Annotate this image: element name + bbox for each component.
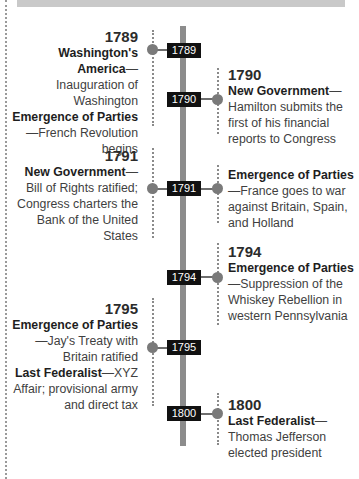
entry-dash: — — [35, 334, 47, 348]
entry-1794: 1794 Emergence of Parties—Suppression of… — [228, 243, 356, 324]
right-dotted-guide — [217, 165, 219, 223]
entry-1800: 1800 Last Federalist—Thomas Jefferson el… — [228, 396, 356, 461]
year-marker-1789: 1789 — [167, 43, 201, 58]
entry-1791-right: Emergence of Parties—France goes to war … — [228, 167, 356, 231]
entry-category: Last Federalist — [228, 414, 315, 428]
entry-text: Jay's Treaty with Britain ratified — [47, 334, 138, 364]
entry-dash: — — [329, 84, 341, 98]
entry-1789: 1789 Washington's America—Inauguration o… — [10, 28, 138, 157]
entry-year: 1789 — [10, 28, 138, 45]
right-dotted-guide — [217, 393, 219, 445]
year-marker-1791: 1791 — [167, 181, 201, 196]
entry-1791: 1791 New Government—Bill of Rights ratif… — [10, 147, 138, 244]
entry-category: Emergence of Parties — [12, 110, 138, 124]
year-marker-1795: 1795 — [167, 340, 201, 355]
entry-text: Bill of Rights ratified; Congress charte… — [17, 181, 138, 243]
entry-dash: — — [26, 126, 38, 140]
marker-dot — [147, 44, 158, 55]
entry-text: Hamilton submits the first of his financ… — [228, 100, 343, 146]
right-dotted-guide — [217, 243, 219, 325]
entry-year: 1800 — [228, 396, 356, 413]
marker-dot — [212, 408, 223, 419]
entry-dash: — — [228, 277, 240, 291]
entry-category: Emergence of Parties — [12, 318, 138, 332]
entry-category: Last Federalist — [15, 366, 102, 380]
entry-category: New Government — [25, 165, 126, 179]
entry-text: Suppression of the Whiskey Rebellion in … — [228, 277, 348, 323]
entry-category: Emergence of Parties — [228, 168, 354, 182]
entry-dash: — — [228, 184, 240, 198]
entry-1795: 1795 Emergence of Parties—Jay's Treaty w… — [10, 300, 138, 413]
entry-dash: — — [315, 414, 327, 428]
entry-dash: — — [126, 62, 138, 76]
entry-year: 1790 — [228, 66, 356, 83]
entry-dash: — — [102, 366, 114, 380]
entry-text: Thomas Jefferson elected president — [228, 430, 326, 460]
left-dotted-border — [5, 0, 7, 479]
marker-dot — [212, 94, 223, 105]
marker-dot — [147, 342, 158, 353]
entry-category: New Government — [228, 84, 329, 98]
timeline-axis — [180, 26, 186, 446]
top-band — [17, 0, 345, 7]
entry-text: Inauguration of Washington — [56, 78, 138, 108]
marker-dot — [212, 183, 223, 194]
entry-dash: — — [126, 165, 138, 179]
entry-year: 1794 — [228, 243, 356, 260]
entry-1790: 1790 New Government—Hamilton submits the… — [228, 66, 356, 147]
entry-text: France goes to war against Britain, Spai… — [228, 184, 348, 230]
year-marker-1800: 1800 — [167, 406, 201, 421]
entry-category: Emergence of Parties — [228, 261, 354, 275]
entry-year: 1791 — [10, 147, 138, 164]
year-marker-1790: 1790 — [167, 92, 201, 107]
entry-year: 1795 — [10, 300, 138, 317]
marker-dot — [147, 183, 158, 194]
year-marker-1794: 1794 — [167, 270, 201, 285]
marker-dot — [212, 272, 223, 283]
